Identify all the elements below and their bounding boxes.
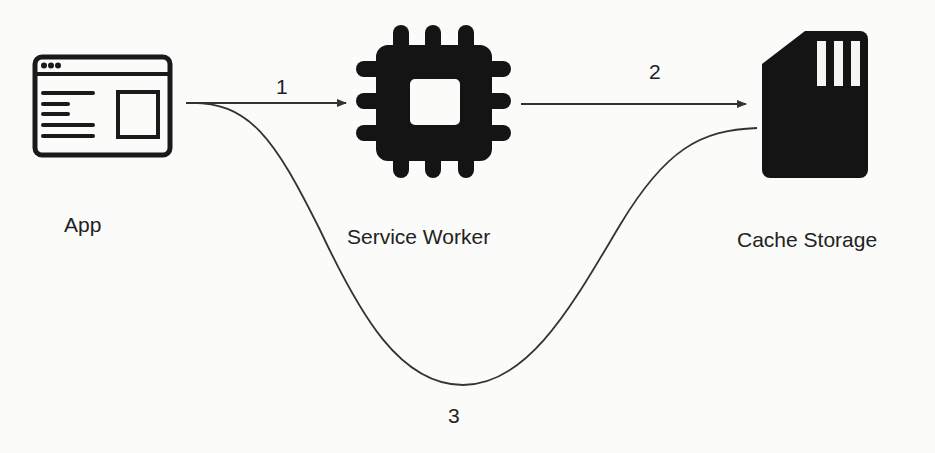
sd-card-icon: [762, 31, 868, 178]
node-label-app: App: [64, 214, 101, 235]
node-label-cache-storage: Cache Storage: [737, 229, 877, 250]
step-label-2: 2: [649, 61, 661, 82]
step-label-1: 1: [276, 76, 288, 97]
node-label-service-worker: Service Worker: [347, 226, 490, 247]
browser-window-icon: [35, 57, 170, 155]
step-label-3: 3: [448, 405, 460, 426]
cpu-chip-icon: [356, 25, 511, 178]
